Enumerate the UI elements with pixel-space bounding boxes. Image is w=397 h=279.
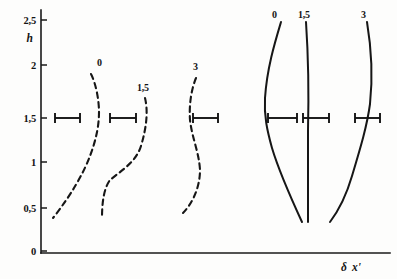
y-tick-label-0: 0 xyxy=(31,246,36,257)
y-axis-variable-label: h xyxy=(27,32,33,44)
solid-curve-1-5 xyxy=(306,22,308,222)
dashed-curve-0 xyxy=(53,74,99,218)
dashed-curve-3 xyxy=(183,78,200,213)
solid-curve-3 xyxy=(330,22,371,222)
solid-curve-label-1-5: 1,5 xyxy=(298,9,310,20)
y-tick-label-0-5: 0,5 xyxy=(23,203,36,214)
error-bar-dashed-0 xyxy=(55,113,80,123)
error-bar-solid-0 xyxy=(268,113,297,123)
y-tick-label-1-5: 1,5 xyxy=(23,113,36,124)
dashed-curve-group: 0 1,5 3 xyxy=(53,57,218,218)
y-axis-ticks xyxy=(41,20,47,251)
solid-curve-label-0: 0 xyxy=(272,9,277,20)
y-tick-label-1: 1 xyxy=(31,157,36,168)
dashed-curve-1-5 xyxy=(102,98,147,218)
y-tick-label-2-5: 2,5 xyxy=(23,15,36,26)
plot-canvas: 2,5 2 1,5 1 0,5 0 h δ x' 0 1,5 xyxy=(0,0,397,279)
solid-curve-group: 0 1,5 3 xyxy=(265,9,380,222)
error-bar-dashed-1-5 xyxy=(110,113,136,123)
y-tick-label-2: 2 xyxy=(31,60,36,71)
x-axis-variable-label: x' xyxy=(351,261,361,273)
error-bar-dashed-3 xyxy=(193,113,218,123)
x-axis-delta-symbol: δ xyxy=(341,261,347,273)
dashed-curve-label-1-5: 1,5 xyxy=(137,82,149,93)
solid-curve-label-3: 3 xyxy=(361,9,366,20)
dashed-curve-label-0: 0 xyxy=(97,57,102,68)
figure-container: 2,5 2 1,5 1 0,5 0 h δ x' 0 1,5 xyxy=(0,0,397,279)
dashed-curve-label-3: 3 xyxy=(193,61,198,72)
error-bar-solid-1-5 xyxy=(303,113,329,123)
